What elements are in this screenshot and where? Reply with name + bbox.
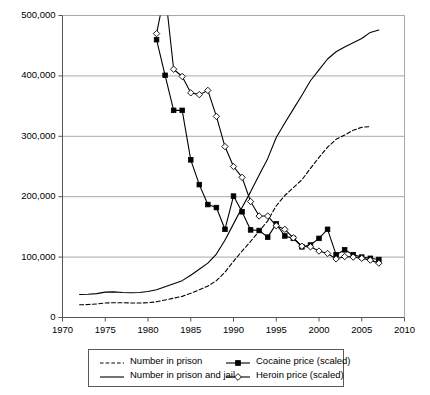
marker-filled-square bbox=[154, 37, 159, 42]
marker-filled-square bbox=[342, 248, 347, 253]
marker-open-diamond bbox=[213, 113, 219, 119]
marker-open-diamond bbox=[188, 90, 194, 96]
legend-item: Number in prison and jail bbox=[99, 368, 235, 382]
legend-key bbox=[99, 355, 125, 367]
marker-open-diamond bbox=[153, 30, 159, 36]
legend-item: Cocaine price (scaled) bbox=[225, 354, 351, 368]
solid-line-icon bbox=[99, 371, 125, 383]
chart-container: 0100,000200,000300,000400,000500,000 197… bbox=[0, 0, 430, 395]
marker-filled-square bbox=[171, 108, 176, 113]
marker-filled-square bbox=[223, 227, 228, 232]
marker-open-diamond bbox=[196, 91, 202, 97]
marker-filled-square bbox=[248, 228, 253, 233]
data-series bbox=[80, 0, 382, 305]
marker-filled-square bbox=[257, 228, 262, 233]
marker-filled-square bbox=[240, 210, 245, 215]
marker-filled-square bbox=[206, 202, 211, 207]
dashed-line-icon bbox=[99, 357, 125, 369]
y-tick-label: 300,000 bbox=[0, 130, 56, 141]
marker-filled-square bbox=[214, 205, 219, 210]
marker-open-diamond bbox=[256, 213, 262, 219]
y-tick-label: 200,000 bbox=[0, 190, 56, 201]
marker-open-diamond bbox=[222, 143, 228, 149]
chart-legend: Number in prisonNumber in prison and jai… bbox=[88, 349, 344, 387]
legend-key bbox=[225, 355, 251, 367]
legend-label: Number in prison and jail bbox=[130, 369, 235, 381]
marker-filled-square bbox=[231, 194, 236, 199]
legend-label: Heroin price (scaled) bbox=[256, 369, 344, 381]
legend-item: Heroin price (scaled) bbox=[225, 368, 351, 382]
marker-filled-square bbox=[180, 108, 185, 113]
marker-open-diamond bbox=[324, 250, 330, 256]
y-tick-label: 400,000 bbox=[0, 69, 56, 80]
legend-label: Number in prison bbox=[130, 355, 202, 367]
legend-item: Number in prison bbox=[99, 354, 235, 368]
series-line-number-in-prison bbox=[80, 127, 371, 305]
marker-filled-square bbox=[325, 227, 330, 232]
marker-filled-square bbox=[283, 234, 288, 239]
marker-open-diamond bbox=[205, 87, 211, 93]
legend-key bbox=[225, 369, 251, 381]
series-clip bbox=[80, 0, 382, 305]
filled-square-line-icon bbox=[225, 357, 251, 369]
marker-filled-square bbox=[197, 182, 202, 187]
marker-filled-square bbox=[265, 235, 270, 240]
marker-open-diamond bbox=[247, 198, 253, 204]
y-tick-label: 0 bbox=[0, 311, 56, 322]
series-line-cocaine-price-scaled bbox=[157, 40, 379, 260]
marker-filled-square bbox=[317, 236, 322, 241]
axes bbox=[59, 16, 405, 322]
legend-column-right: Cocaine price (scaled)Heroin price (scal… bbox=[225, 354, 351, 382]
x-tick-label: 2010 bbox=[380, 324, 430, 335]
legend-label: Cocaine price (scaled) bbox=[256, 355, 351, 367]
marker-open-diamond bbox=[341, 253, 347, 259]
marker-filled-square bbox=[188, 158, 193, 163]
y-tick-label: 500,000 bbox=[0, 9, 56, 20]
chart-plot bbox=[0, 0, 430, 395]
open-diamond-line-icon bbox=[225, 371, 251, 383]
gridlines bbox=[63, 16, 405, 258]
marker-filled-square bbox=[163, 73, 168, 78]
legend-column-left: Number in prisonNumber in prison and jai… bbox=[99, 354, 235, 382]
y-tick-label: 100,000 bbox=[0, 251, 56, 262]
series-line-heroin-price-scaled bbox=[157, 0, 379, 263]
marker-open-diamond bbox=[316, 248, 322, 254]
legend-key bbox=[99, 369, 125, 381]
